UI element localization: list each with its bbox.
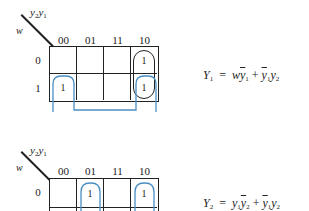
equation-y1: Y1 = wy1 + y1y2	[203, 68, 279, 83]
wraparound-loop	[0, 0, 180, 120]
grouping-loops	[0, 120, 180, 211]
equation-y2: Y2 = y1y2 + y1y2	[203, 196, 280, 211]
